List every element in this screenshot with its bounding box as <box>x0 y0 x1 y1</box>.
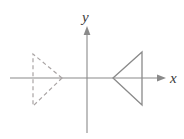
dashed-triangle <box>33 54 62 106</box>
figure-svg: x y <box>0 0 184 139</box>
x-axis-label: x <box>169 70 177 86</box>
y-axis-label: y <box>80 9 89 25</box>
x-axis-arrow-icon <box>157 75 166 82</box>
y-axis-arrow-icon <box>84 26 91 35</box>
coordinate-plane-figure: x y <box>0 0 184 139</box>
